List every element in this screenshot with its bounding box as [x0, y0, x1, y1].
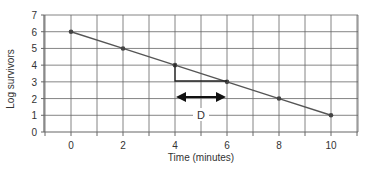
y-tick-label: 6 [31, 27, 37, 38]
y-tick-label: 3 [31, 77, 37, 88]
y-tick-label: 5 [31, 43, 37, 54]
x-tick-label: 2 [120, 140, 126, 151]
arrow-right-icon [216, 92, 226, 102]
data-point [69, 29, 74, 34]
data-point [329, 113, 334, 118]
x-tick-label: 0 [68, 140, 74, 151]
x-axis-label: Time (minutes) [168, 152, 234, 163]
d-value-label: D [197, 109, 205, 121]
x-tick-label: 8 [276, 140, 282, 151]
data-point [225, 80, 230, 85]
y-axis: 01234567 [31, 10, 44, 138]
y-tick-label: 1 [31, 110, 37, 121]
y-axis-label: Log survivors [5, 49, 16, 108]
arrow-left-icon [176, 92, 186, 102]
chart: 01234567 0246810 Log survivors Time (min… [0, 0, 371, 173]
y-tick-label: 2 [31, 94, 37, 105]
data-point [277, 96, 282, 101]
x-axis: 0246810 [45, 132, 357, 151]
y-tick-label: 4 [31, 60, 37, 71]
data-point [121, 46, 126, 51]
y-tick-label: 0 [31, 127, 37, 138]
x-tick-label: 10 [325, 140, 337, 151]
y-tick-label: 7 [31, 10, 37, 21]
x-tick-label: 6 [224, 140, 230, 151]
x-tick-label: 4 [172, 140, 178, 151]
